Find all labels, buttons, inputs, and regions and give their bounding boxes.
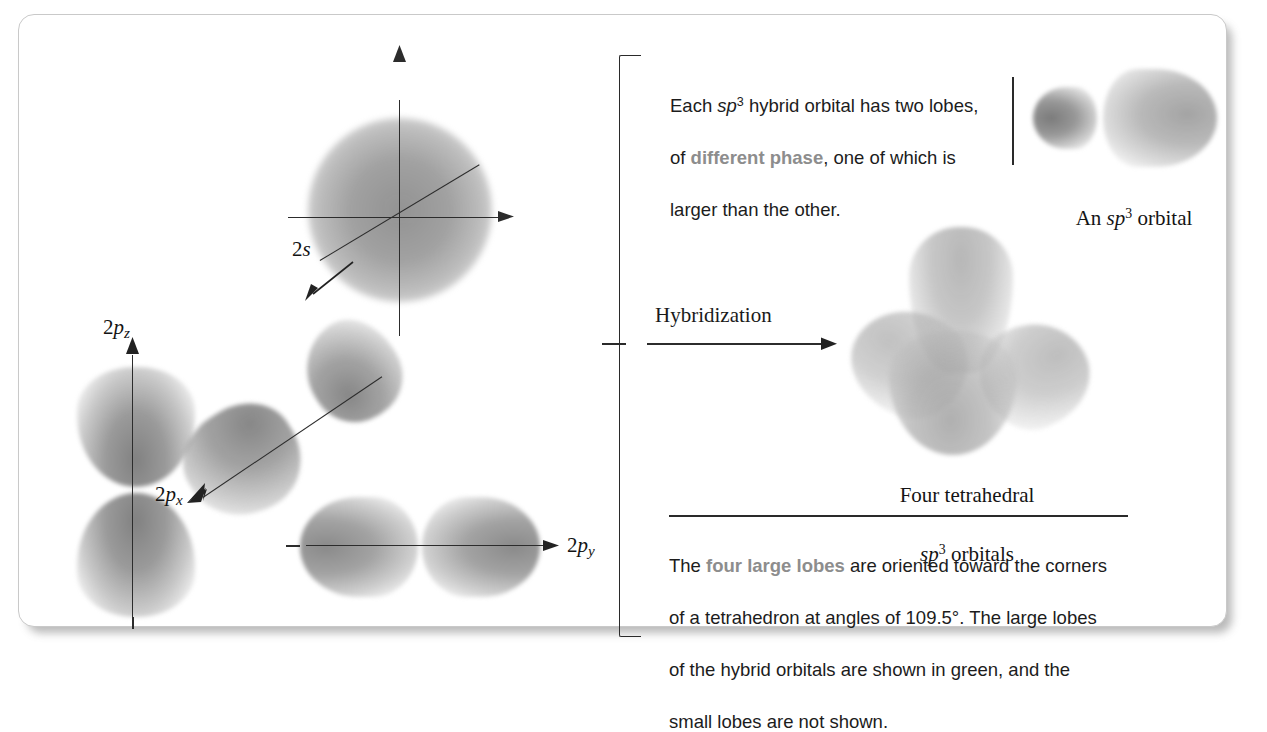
orbital-2pz-lobe-lower xyxy=(77,493,195,617)
bottom-note-separator xyxy=(669,515,1128,517)
hybrid-orbitals-panel: Each sp3 hybrid orbital has two lobes, o… xyxy=(641,15,1228,626)
highlight-four-large-lobes: four large lobes xyxy=(706,555,845,576)
orbital-2pz-lobe-upper xyxy=(77,367,195,487)
single-orbital-caption: An sp3 orbital xyxy=(1031,173,1237,232)
orbital-2py-arrowhead-right xyxy=(543,538,561,554)
top-note-text: Each sp3 hybrid orbital has two lobes, o… xyxy=(670,63,1000,223)
highlight-different-phase: different phase xyxy=(691,147,824,168)
orbital-2py-axis-tick xyxy=(286,545,300,547)
sp3-large-lobe xyxy=(1103,69,1217,167)
grouping-bracket xyxy=(619,55,641,637)
orbital-2s-pointer-arrow xyxy=(305,260,357,302)
orbital-2py-lobe-left xyxy=(300,497,418,597)
sp3-small-lobe xyxy=(1033,87,1097,149)
bracket-mid-tick xyxy=(602,343,626,345)
figure-card: 2s 2pz xyxy=(18,14,1227,627)
orbital-2py-axis xyxy=(306,545,544,546)
orbital-2pz-label: 2pz xyxy=(103,315,130,342)
orbital-2pz-axis-tick xyxy=(132,617,134,629)
orbital-2py-lobe-right xyxy=(422,497,540,597)
orbital-2s-label: 2s xyxy=(292,237,311,262)
bottom-note-text: The four large lobes are oriented toward… xyxy=(669,527,1189,732)
single-sp3-orbital xyxy=(1031,67,1231,172)
orbital-2s-arrowhead-up xyxy=(391,45,408,63)
atomic-orbitals-panel: 2s 2pz xyxy=(19,15,619,626)
orbital-2px-label: 2px xyxy=(155,482,183,509)
orbital-2pz-axis xyxy=(132,355,133,617)
orbital-2s-arrowhead-right xyxy=(498,209,516,225)
note-divider-vertical xyxy=(1012,77,1014,165)
tetrahedral-sp3-cluster xyxy=(841,227,1093,455)
cluster-lobe-front xyxy=(889,331,1017,455)
orbital-2px xyxy=(179,315,429,525)
orbital-2py xyxy=(294,495,560,605)
orbital-2px-arrowhead xyxy=(187,481,213,505)
orbital-2s xyxy=(294,100,524,340)
orbital-2py-label: 2py xyxy=(567,533,595,560)
orbital-2s-axis-horizontal xyxy=(288,217,506,218)
orbital-2px-lobe-upper-right xyxy=(287,303,419,438)
